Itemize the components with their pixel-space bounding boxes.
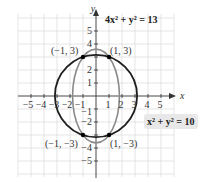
svg-text:−3: −3 — [49, 99, 60, 110]
svg-text:−5: −5 — [81, 155, 92, 166]
svg-text:−4: −4 — [81, 142, 92, 153]
label-1-3: (1, 3) — [110, 45, 132, 57]
ellipse-equation: 4x² + y² = 13 — [105, 14, 157, 25]
svg-text:5: 5 — [158, 99, 163, 110]
svg-text:−5: −5 — [23, 99, 34, 110]
svg-text:5: 5 — [87, 25, 92, 36]
svg-text:3: 3 — [132, 99, 137, 110]
y-axis-label: y — [90, 3, 96, 14]
label-neg1-3: (−1, 3) — [51, 45, 78, 57]
x-tick-labels: −5 −4 −3 −2 −1 1 2 3 4 5 — [23, 99, 163, 110]
svg-text:−2: −2 — [62, 99, 73, 110]
x-axis-label: x — [179, 90, 185, 101]
point-neg1-neg3 — [81, 133, 85, 137]
label-1-neg3: (1, −3) — [110, 138, 137, 150]
svg-text:4: 4 — [87, 38, 92, 49]
svg-text:−2: −2 — [81, 116, 92, 127]
point-1-neg3 — [107, 133, 111, 137]
svg-text:4: 4 — [145, 99, 150, 110]
svg-text:2: 2 — [87, 64, 92, 75]
label-neg1-neg3: (−1, −3) — [45, 138, 78, 150]
svg-text:1: 1 — [106, 99, 111, 110]
svg-text:−4: −4 — [36, 99, 47, 110]
svg-text:2: 2 — [119, 99, 124, 110]
point-neg1-3 — [81, 55, 85, 59]
circle-equation: x² + y² = 10 — [147, 116, 194, 127]
x-axis-arrow-icon — [169, 93, 176, 99]
axes — [18, 12, 172, 178]
svg-text:1: 1 — [87, 77, 92, 88]
graph: −5 −4 −3 −2 −1 1 2 3 4 5 5 4 2 1 −1 −2 −… — [0, 0, 208, 182]
